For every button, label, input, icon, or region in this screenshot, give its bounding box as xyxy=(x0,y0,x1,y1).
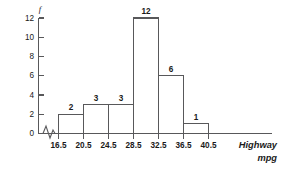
y-tick-label-4: 4 xyxy=(29,91,34,100)
bar-value-label-2: 3 xyxy=(94,94,99,103)
histogram-bar-5 xyxy=(159,76,184,134)
histogram-canvas: 0 2 4 6 8 10 12 f 2 3 3 xyxy=(0,0,292,175)
bar-value-label-6: 1 xyxy=(194,113,199,122)
y-tick-label-12: 12 xyxy=(25,14,35,23)
bar-value-label-1: 2 xyxy=(69,103,74,112)
x-tick-label-1: 16.5 xyxy=(51,141,67,150)
histogram-bar-2 xyxy=(84,105,109,134)
x-tick-label-5: 32.5 xyxy=(151,141,167,150)
y-tick-label-6: 6 xyxy=(29,71,34,80)
y-tick-label-0: 0 xyxy=(29,129,34,138)
histogram-bar-6 xyxy=(184,124,209,134)
y-tick-label-8: 8 xyxy=(29,52,34,61)
axis-break-icon xyxy=(43,126,55,138)
y-tick-label-2: 2 xyxy=(29,110,34,119)
x-tick-label-2: 20.5 xyxy=(76,141,92,150)
x-tick-label-7: 40.5 xyxy=(201,141,217,150)
y-tick-marks xyxy=(39,18,44,134)
bar-value-label-5: 6 xyxy=(169,65,174,74)
bar-value-label-3: 3 xyxy=(119,94,124,103)
x-tick-label-3: 24.5 xyxy=(101,141,117,150)
y-axis-title: f xyxy=(39,4,43,14)
x-tick-label-6: 36.5 xyxy=(176,141,192,150)
histogram-figure: 0 2 4 6 8 10 12 f 2 3 3 xyxy=(0,0,292,175)
y-tick-label-10: 10 xyxy=(25,33,35,42)
x-tick-marks xyxy=(59,134,209,139)
histogram-bar-4 xyxy=(134,18,159,134)
x-axis-title-line2: mpg xyxy=(257,153,277,163)
histogram-bar-1 xyxy=(59,114,84,133)
x-axis-title-line1: Highway xyxy=(239,140,278,150)
histogram-bar-3 xyxy=(109,105,134,134)
bar-value-label-4: 12 xyxy=(141,7,151,16)
x-tick-label-4: 28.5 xyxy=(126,141,142,150)
